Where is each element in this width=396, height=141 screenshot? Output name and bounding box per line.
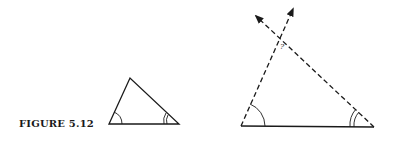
small-right-angle-arc-inner [166,115,168,124]
figure-caption: FIGURE 5.12 [19,118,94,129]
large-right-angle-arc-inner [354,112,359,127]
large-left-angle-arc [250,104,265,126]
small-left-angle-arc [114,112,122,124]
unknown-angle-label: ? [280,42,284,51]
large-right-ray [256,16,374,127]
large-triangle [241,9,374,127]
small-right-angle-arc-outer [164,113,166,124]
small-triangle-outline [109,78,179,124]
small-triangle [109,78,179,124]
